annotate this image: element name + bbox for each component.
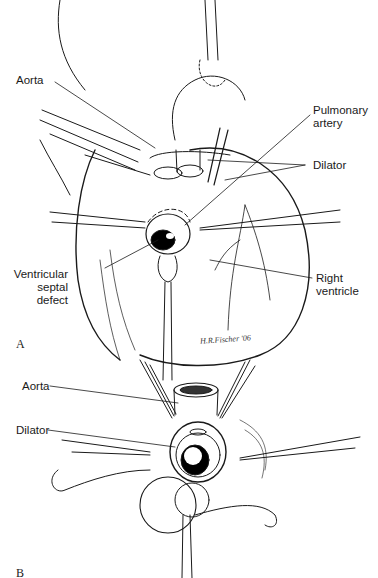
- label-vsd-line3: defect: [0, 294, 68, 307]
- label-aorta-b: Aorta: [22, 380, 50, 393]
- panel-letter-a: A: [16, 337, 25, 352]
- label-pulmonary-artery-line1: Pulmonary: [313, 104, 368, 117]
- label-pulmonary-artery-line2: artery: [313, 117, 342, 130]
- panel-letter-b: B: [16, 566, 24, 578]
- label-right-ventricle-line1: Right: [316, 272, 343, 285]
- label-aorta-a: Aorta: [16, 74, 44, 87]
- label-right-ventricle-line2: ventricle: [316, 285, 359, 298]
- label-dilator-a: Dilator: [313, 159, 346, 172]
- label-dilator-b: Dilator: [16, 424, 49, 437]
- label-vsd-line2: septal: [0, 281, 68, 294]
- label-vsd-line1: Ventricular: [0, 268, 68, 281]
